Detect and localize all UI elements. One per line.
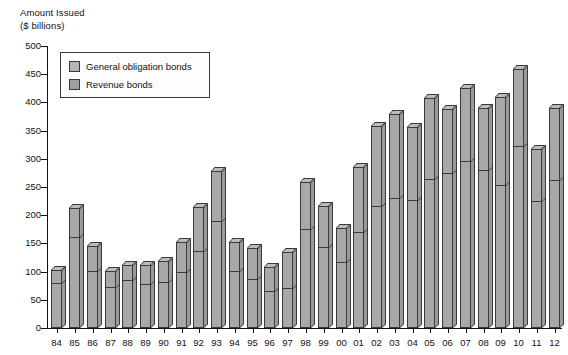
- bar-front-face: [51, 270, 62, 328]
- x-axis-tick-label: 85: [65, 338, 85, 348]
- bar-front-face: [549, 108, 560, 328]
- bar-08[interactable]: [478, 104, 493, 328]
- bar-side-face: [524, 65, 528, 328]
- bar-segment-divider: [87, 271, 98, 272]
- bar-side-face: [240, 238, 244, 328]
- bar-front-face: [69, 208, 80, 328]
- bar-87[interactable]: [105, 267, 120, 328]
- x-axis-tick: [128, 328, 129, 333]
- x-axis-tick: [537, 328, 538, 333]
- x-axis-tick-label: 12: [545, 338, 565, 348]
- bar-front-face: [424, 98, 435, 328]
- bar-front-face: [513, 69, 524, 328]
- bar-side-face: [506, 93, 510, 328]
- bar-97[interactable]: [282, 248, 297, 328]
- x-axis-tick: [93, 328, 94, 333]
- bar-front-face: [122, 265, 133, 328]
- bar-segment-divider: [442, 173, 453, 174]
- y-axis-line: [47, 46, 48, 329]
- x-axis-tick: [359, 328, 360, 333]
- bar-99[interactable]: [318, 202, 333, 328]
- bar-front-face: [264, 267, 275, 328]
- bar-front-face: [282, 252, 293, 328]
- y-axis-tick: [41, 46, 47, 47]
- bar-09[interactable]: [495, 93, 510, 328]
- bar-91[interactable]: [176, 238, 191, 328]
- bar-11[interactable]: [531, 145, 546, 328]
- bar-side-face: [453, 105, 457, 328]
- bar-03[interactable]: [389, 110, 404, 328]
- bar-segment-divider: [549, 180, 560, 181]
- bar-segment-divider: [513, 146, 524, 147]
- bar-front-face: [371, 126, 382, 328]
- y-axis-tick-label: 50: [5, 295, 41, 305]
- bar-10[interactable]: [513, 65, 528, 328]
- x-axis-tick: [395, 328, 396, 333]
- y-axis-tick-label: 100: [5, 267, 41, 277]
- bar-front-face: [300, 182, 311, 328]
- bar-94[interactable]: [229, 238, 244, 328]
- x-axis-tick: [288, 328, 289, 333]
- bar-98[interactable]: [300, 178, 315, 328]
- x-axis-tick-label: 11: [527, 338, 547, 348]
- bar-segment-divider: [176, 272, 187, 273]
- bar-93[interactable]: [211, 167, 226, 328]
- bar-06[interactable]: [442, 105, 457, 328]
- bar-92[interactable]: [193, 203, 208, 328]
- x-axis-tick: [448, 328, 449, 333]
- bar-segment-divider: [300, 229, 311, 230]
- bar-side-face: [133, 261, 137, 328]
- legend-label-revenue: Revenue bonds: [86, 79, 153, 90]
- bar-96[interactable]: [264, 263, 279, 328]
- x-axis-tick: [57, 328, 58, 333]
- y-axis-tick-label: 0: [5, 323, 41, 333]
- bar-88[interactable]: [122, 261, 137, 328]
- bar-segment-divider: [424, 179, 435, 180]
- bar-01[interactable]: [353, 163, 368, 328]
- bar-95[interactable]: [247, 244, 262, 328]
- bar-89[interactable]: [140, 261, 155, 328]
- bar-segment-divider: [531, 201, 542, 202]
- bar-02[interactable]: [371, 122, 386, 328]
- bar-segment-divider: [122, 280, 133, 281]
- bar-07[interactable]: [460, 84, 475, 328]
- bar-front-face: [318, 206, 329, 328]
- bar-side-face: [311, 178, 315, 328]
- bar-85[interactable]: [69, 204, 84, 328]
- bar-segment-divider: [105, 287, 116, 288]
- bar-05[interactable]: [424, 94, 439, 328]
- legend-label-general-obligation: General obligation bonds: [86, 61, 192, 72]
- bar-front-face: [495, 97, 506, 328]
- x-axis-tick-label: 03: [385, 338, 405, 348]
- y-axis-title: Amount Issued($ billions): [20, 6, 85, 32]
- bar-side-face: [187, 238, 191, 328]
- bar-front-face: [229, 242, 240, 328]
- bar-front-face: [460, 88, 471, 328]
- bar-side-face: [471, 84, 475, 328]
- bar-front-face: [247, 248, 258, 328]
- bar-84[interactable]: [51, 266, 66, 328]
- bar-segment-divider: [389, 198, 400, 199]
- bar-12[interactable]: [549, 104, 564, 328]
- x-axis-tick: [253, 328, 254, 333]
- bar-segment-divider: [282, 288, 293, 289]
- bar-side-face: [560, 104, 564, 328]
- legend-swatch-revenue: [69, 79, 80, 90]
- bar-86[interactable]: [87, 242, 102, 328]
- y-axis-tick-label: 350: [5, 126, 41, 136]
- x-axis-tick-label: 97: [278, 338, 298, 348]
- bar-segment-divider: [264, 291, 275, 292]
- bar-side-face: [204, 203, 208, 328]
- x-axis-tick-label: 96: [260, 338, 280, 348]
- x-axis-tick-label: 89: [136, 338, 156, 348]
- bar-front-face: [353, 167, 364, 328]
- bar-side-face: [151, 261, 155, 328]
- bar-front-face: [87, 246, 98, 328]
- y-axis-tick: [41, 187, 47, 188]
- bar-00[interactable]: [336, 224, 351, 328]
- y-axis-tick: [41, 102, 47, 103]
- x-axis-line: [47, 328, 562, 329]
- x-axis-tick: [555, 328, 556, 333]
- bar-04[interactable]: [407, 123, 422, 328]
- bar-90[interactable]: [158, 257, 173, 328]
